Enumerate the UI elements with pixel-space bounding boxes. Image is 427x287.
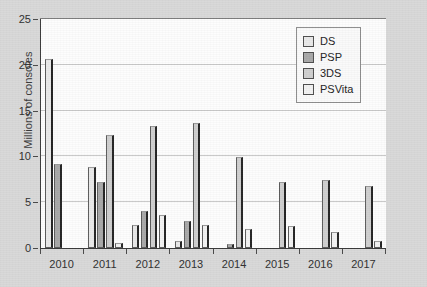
legend-label-ds: DS: [320, 36, 335, 47]
y-tick-label-0: 0: [7, 242, 31, 254]
legend-item-psp: PSP: [303, 49, 353, 65]
x-tick-mark-2015: [256, 249, 257, 254]
bar-ds-2011: [88, 167, 96, 248]
bar-psp-2013: [184, 221, 192, 248]
y-tick-mark-10: [33, 156, 38, 157]
bar-3ds-2012: [150, 126, 158, 248]
x-tick-label-2012: 2012: [125, 258, 171, 270]
bar-psvita-2016: [331, 232, 339, 248]
legend-item-psvita: PSVita: [303, 81, 353, 97]
legend-swatch-ds: [303, 36, 314, 47]
y-tick-label-15: 15: [7, 105, 31, 117]
y-tick-label-20: 20: [7, 59, 31, 71]
x-tick-label-2017: 2017: [340, 258, 386, 270]
bar-psp-2014: [227, 244, 235, 248]
legend-swatch-psp: [303, 52, 314, 63]
bar-ds-2010: [45, 59, 53, 248]
bar-psvita-2013: [202, 225, 210, 248]
x-tick-label-2015: 2015: [254, 258, 300, 270]
x-tick-mark-2017: [342, 249, 343, 254]
bar-psvita-2011: [115, 243, 123, 248]
legend-item-ds: DS: [303, 33, 353, 49]
x-tick-label-2011: 2011: [82, 258, 128, 270]
bar-3ds-2015: [279, 182, 287, 248]
bar-ds-2012: [132, 225, 140, 248]
bar-psvita-2015: [288, 226, 296, 248]
x-tick-mark-2011: [83, 249, 84, 254]
x-tick-label-2013: 2013: [168, 258, 214, 270]
legend-label-psvita: PSVita: [320, 84, 353, 95]
bar-psvita-2017: [374, 241, 382, 248]
x-tick-mark-2016: [299, 249, 300, 254]
bar-3ds-2016: [322, 180, 330, 248]
x-tick-mark-2010: [40, 249, 41, 254]
bar-psp-2010: [54, 164, 62, 248]
bar-psvita-2012: [159, 215, 167, 248]
y-tick-mark-20: [33, 65, 38, 66]
x-tick-mark-end: [385, 249, 386, 254]
bar-3ds-2017: [365, 186, 373, 248]
bar-psvita-2014: [245, 229, 253, 248]
bar-3ds-2013: [193, 123, 201, 248]
gridline-10: [41, 155, 386, 156]
y-tick-label-25: 25: [7, 13, 31, 25]
x-tick-label-2016: 2016: [297, 258, 343, 270]
x-tick-mark-2012: [126, 249, 127, 254]
gridline-15: [41, 110, 386, 111]
legend-item-3ds: 3DS: [303, 65, 353, 81]
x-tick-mark-2013: [169, 249, 170, 254]
y-tick-mark-15: [33, 111, 38, 112]
legend-label-psp: PSP: [320, 52, 342, 63]
legend-swatch-psvita: [303, 84, 314, 95]
x-tick-mark-2014: [213, 249, 214, 254]
chart-legend: DSPSP3DSPSVita: [296, 27, 361, 103]
y-tick-label-5: 5: [7, 196, 31, 208]
bar-psp-2012: [141, 211, 149, 248]
y-tick-mark-0: [33, 248, 38, 249]
bar-3ds-2014: [236, 157, 244, 248]
bar-ds-2013: [175, 241, 183, 248]
legend-swatch-3ds: [303, 68, 314, 79]
legend-label-3ds: 3DS: [320, 68, 341, 79]
y-axis-tick-labels: 0510152025: [5, 0, 31, 287]
y-tick-mark-5: [33, 202, 38, 203]
bar-chart: Millions of consoles 0510152025 DSPSP3DS…: [0, 0, 427, 287]
y-tick-mark-25: [33, 19, 38, 20]
bar-psp-2011: [97, 182, 105, 248]
x-tick-label-2014: 2014: [211, 258, 257, 270]
x-tick-label-2010: 2010: [39, 258, 85, 270]
y-tick-label-10: 10: [7, 150, 31, 162]
bar-3ds-2011: [106, 135, 114, 248]
